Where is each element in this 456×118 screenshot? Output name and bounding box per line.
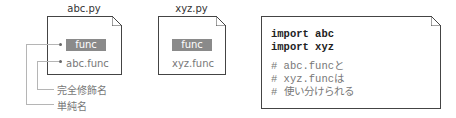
- folded-corner-icon: [112, 16, 122, 26]
- code-file: import abc import xyz # abc.funcと # xyz.…: [261, 16, 441, 109]
- code-comment: # xyz.funcは: [271, 73, 354, 86]
- simple-name-badge: func: [172, 39, 212, 51]
- folded-corner-icon: [216, 16, 226, 26]
- qualified-name-label: 完全修飾名: [57, 82, 107, 97]
- leader-line-simple-h: [26, 44, 59, 45]
- leader-line-qualified-h: [37, 61, 59, 62]
- file-name-xyz: xyz.py: [158, 3, 225, 14]
- folded-corner-icon: [431, 16, 441, 26]
- file-abc: func abc.func: [47, 16, 122, 75]
- code-line: import xyz: [271, 41, 354, 54]
- file-xyz: func xyz.func: [158, 16, 226, 75]
- qualified-name: abc.func: [66, 58, 109, 69]
- simple-name-anchor-dot: [59, 43, 62, 46]
- leader-line-simple-h2: [26, 104, 54, 105]
- qualified-name: xyz.func: [172, 58, 214, 69]
- code-line: import abc: [271, 28, 354, 41]
- leader-line-qualified-v: [37, 61, 38, 89]
- code-comment: # abc.funcと: [271, 60, 354, 73]
- simple-name-label: 単純名: [57, 98, 87, 113]
- simple-name-badge: func: [66, 39, 106, 51]
- qualified-name-anchor-dot: [59, 60, 62, 63]
- file-name-abc: abc.py: [47, 3, 121, 14]
- leader-line-qualified-h2: [37, 89, 54, 90]
- leader-line-simple-v: [26, 44, 27, 104]
- code-comment: # 使い分けられる: [271, 86, 354, 99]
